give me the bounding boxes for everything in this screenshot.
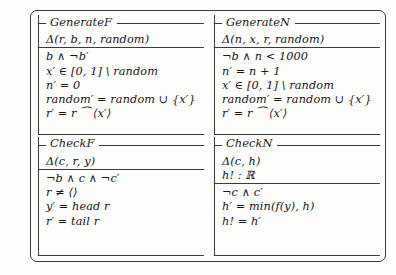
- schema-header: GenerateN: [215, 16, 380, 31]
- schema-declarations: Δ(n, x, r, random): [222, 31, 380, 47]
- schema-header: GenerateF: [39, 16, 204, 31]
- predicate-line: r′ = tail r: [46, 215, 204, 229]
- schema-title: GenerateF: [46, 16, 117, 29]
- schema-bottom-rule: [215, 134, 380, 135]
- schema-declarations: Δ(r, b, n, random): [46, 31, 204, 47]
- schema-declarations: Δ(c, h) h! : ℝ: [222, 153, 380, 184]
- schema-title: GenerateN: [222, 16, 295, 29]
- schema-box-checkn: CheckN Δ(c, h) h! : ℝ ¬c ∧ c′ h′ = min(f…: [214, 137, 380, 257]
- schema-title: CheckF: [46, 137, 99, 150]
- declaration-line: Δ(c, r, y): [46, 155, 204, 169]
- predicate-line: x′ ∈ [0, 1] \ random: [222, 79, 380, 93]
- schema-bottom-rule: [39, 255, 204, 256]
- schema-declarations: Δ(c, r, y): [46, 153, 204, 169]
- schema-box-checkf: CheckF Δ(c, r, y) ¬b ∧ c ∧ ¬c′ r ≠ ⟨⟩ y′…: [38, 137, 204, 257]
- declaration-line: Δ(n, x, r, random): [222, 33, 380, 47]
- schema-predicates: ¬c ∧ c′ h′ = min(f(y), h) h! = h′: [215, 183, 380, 255]
- predicate-line: n′ = 0: [46, 79, 204, 93]
- predicate-line: r ≠ ⟨⟩: [46, 186, 204, 200]
- schema-title: CheckN: [222, 137, 277, 150]
- declaration-line: Δ(c, h): [222, 155, 380, 169]
- predicate-line: random′ = random ∪ {x′}: [46, 93, 204, 107]
- schema-predicates: b ∧ ¬b′ x′ ∈ [0, 1] \ random n′ = 0 rand…: [39, 47, 204, 133]
- predicate-line: b ∧ ¬b′: [46, 50, 204, 64]
- predicate-line: y′ = head r: [46, 200, 204, 214]
- predicate-line: h′ = min(f(y), h): [222, 200, 380, 214]
- schema-grid: GenerateF Δ(r, b, n, random) b ∧ ¬b′ x′ …: [30, 10, 386, 262]
- predicate-line: x′ ∈ [0, 1] \ random: [46, 65, 204, 79]
- predicate-line: r′ = r ⁀ ⟨x′⟩: [222, 107, 380, 121]
- predicate-line: random′ = random ∪ {x′}: [222, 93, 380, 107]
- declaration-line: h! : ℝ: [222, 169, 380, 183]
- schema-bottom-rule: [215, 255, 380, 256]
- schema-header: CheckF: [39, 138, 204, 153]
- schema-predicates: ¬b ∧ c ∧ ¬c′ r ≠ ⟨⟩ y′ = head r r′ = tai…: [39, 169, 204, 255]
- schema-bottom-rule: [39, 134, 204, 135]
- schema-box-generatef: GenerateF Δ(r, b, n, random) b ∧ ¬b′ x′ …: [38, 15, 204, 135]
- predicate-line: ¬c ∧ c′: [222, 186, 380, 200]
- predicate-line: r′ = r ⁀ ⟨x′⟩: [46, 107, 204, 121]
- predicate-line: ¬b ∧ n < 1000: [222, 50, 380, 64]
- schema-box-generaten: GenerateN Δ(n, x, r, random) ¬b ∧ n < 10…: [214, 15, 380, 135]
- predicate-line: h! = h′: [222, 215, 380, 229]
- schema-predicates: ¬b ∧ n < 1000 n′ = n + 1 x′ ∈ [0, 1] \ r…: [215, 47, 380, 133]
- predicate-line: ¬b ∧ c ∧ ¬c′: [46, 172, 204, 186]
- declaration-line: Δ(r, b, n, random): [46, 33, 204, 47]
- predicate-line: n′ = n + 1: [222, 65, 380, 79]
- schema-header: CheckN: [215, 138, 380, 153]
- z-schema-figure: GenerateF Δ(r, b, n, random) b ∧ ¬b′ x′ …: [0, 0, 396, 275]
